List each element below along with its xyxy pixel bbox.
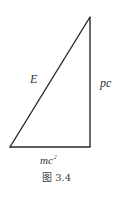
horizontal-leg-label: mc2 (40, 154, 57, 166)
horizontal-leg-label-base: mc (40, 154, 53, 166)
vertical-leg-label: pc (100, 77, 111, 89)
hypotenuse-line-e (10, 17, 90, 147)
figure-caption: 图 3.4 (42, 173, 71, 183)
energy-momentum-triangle-figure: E pc mc2 图 3.4 (0, 0, 120, 203)
horizontal-leg-label-exponent: 2 (54, 154, 57, 160)
hypotenuse-label: E (30, 73, 37, 85)
